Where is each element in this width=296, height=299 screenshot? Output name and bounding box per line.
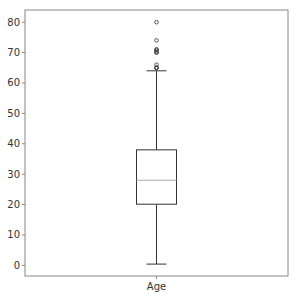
y-tick-label: 80	[7, 17, 20, 28]
y-tick-label: 0	[14, 260, 20, 271]
y-tick-label: 10	[7, 229, 20, 240]
outlier-point	[155, 20, 159, 24]
y-axis: 01020304050607080	[7, 17, 25, 271]
y-tick-label: 30	[7, 169, 20, 180]
y-tick-label: 50	[7, 108, 20, 119]
plot-area	[137, 20, 177, 264]
x-tick-label: Age	[147, 281, 166, 292]
box-group	[137, 20, 177, 264]
y-tick-label: 20	[7, 199, 20, 210]
y-tick-label: 60	[7, 77, 20, 88]
outlier-point	[155, 39, 159, 43]
y-tick-label: 40	[7, 138, 20, 149]
x-axis: Age	[147, 276, 166, 292]
box-plot-chart: 01020304050607080 Age	[0, 0, 296, 299]
y-tick-label: 70	[7, 47, 20, 58]
iqr-box	[137, 150, 177, 204]
